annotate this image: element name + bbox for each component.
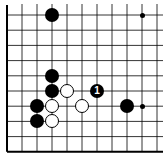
star-point-icon xyxy=(140,13,145,18)
black-stone: 1 xyxy=(90,84,104,98)
move-number-label: 1 xyxy=(94,86,100,96)
white-stone xyxy=(60,84,74,98)
board-grid xyxy=(0,0,166,164)
go-board-diagram: 1 xyxy=(0,0,166,164)
black-stone xyxy=(45,8,59,22)
black-stone xyxy=(45,69,59,83)
star-point-icon xyxy=(140,104,145,109)
black-stone xyxy=(45,84,59,98)
